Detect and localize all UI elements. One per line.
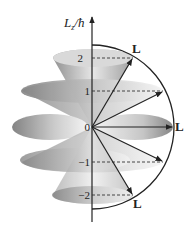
vector-label-middle: L (175, 119, 184, 134)
level-label-1: 1 (85, 85, 91, 97)
axis-label: Lz/ħ (63, 15, 84, 32)
diagram-svg: Lz/ħ 2 1 0 −1 −2 L L L (0, 0, 194, 226)
level-label-minus1: −1 (78, 156, 90, 168)
level-label-0: 0 (85, 121, 91, 133)
vector-label-bottom: L (133, 196, 142, 211)
level-label-minus2: −2 (78, 189, 90, 201)
level-label-2: 2 (78, 52, 84, 64)
vector-label-top: L (132, 41, 141, 56)
angular-momentum-diagram: Lz/ħ 2 1 0 −1 −2 L L L (0, 0, 194, 226)
